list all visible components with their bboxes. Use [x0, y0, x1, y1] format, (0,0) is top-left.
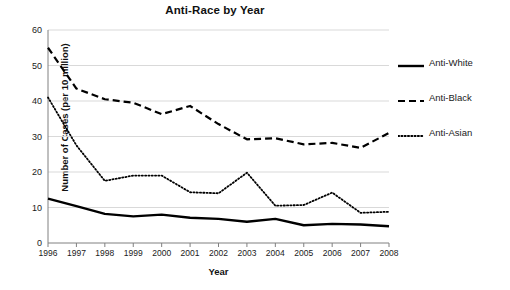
line-chart: Anti-Race by Year Number of Cases (per 1…: [0, 0, 510, 290]
chart-legend: Anti-WhiteAnti-BlackAnti-Asian: [398, 47, 510, 152]
plot-area: Number of Cases (per 10 million) 0102030…: [48, 30, 389, 243]
x-tick-label: 2000: [152, 248, 171, 258]
legend-label: Anti-Asian: [429, 127, 472, 138]
plot-svg: [48, 30, 389, 243]
series-line-anti-asian: [48, 97, 389, 212]
legend-item-anti-white[interactable]: Anti-White: [398, 47, 510, 77]
legend-item-anti-asian[interactable]: Anti-Asian: [398, 117, 510, 147]
x-tick-label: 1997: [67, 248, 86, 258]
x-tick-label: 2004: [266, 248, 285, 258]
x-tick-label: 2002: [209, 248, 228, 258]
series-line-anti-white: [48, 199, 389, 227]
legend-label: Anti-White: [429, 57, 473, 68]
data-series-group: [48, 48, 389, 227]
y-tick-label: 20: [32, 167, 42, 177]
legend-label: Anti-Black: [429, 92, 472, 103]
y-tick-label: 10: [32, 203, 42, 213]
x-tick-label: 2001: [181, 248, 200, 258]
y-tick-label: 40: [32, 96, 42, 106]
y-tick-label: 0: [37, 238, 42, 248]
dashed-line-icon: [398, 92, 424, 102]
chart-title: Anti-Race by Year: [0, 4, 430, 16]
x-axis-tick-marks: [48, 243, 389, 247]
x-tick-label: 1996: [39, 248, 58, 258]
y-tick-label: 60: [32, 25, 42, 35]
x-tick-label: 2005: [294, 248, 313, 258]
legend-item-anti-black[interactable]: Anti-Black: [398, 82, 510, 112]
x-tick-label: 2008: [380, 248, 399, 258]
solid-line-icon: [398, 57, 424, 67]
x-tick-label: 1998: [95, 248, 114, 258]
x-tick-label: 2003: [237, 248, 256, 258]
x-tick-label: 2007: [351, 248, 370, 258]
x-tick-label: 2006: [323, 248, 342, 258]
gridlines: [48, 30, 389, 208]
series-line-anti-black: [48, 48, 389, 148]
x-tick-label: 1999: [124, 248, 143, 258]
y-tick-label: 30: [32, 132, 42, 142]
x-axis-title: Year: [48, 266, 389, 277]
y-tick-label: 50: [32, 61, 42, 71]
dotted-line-icon: [398, 127, 424, 137]
